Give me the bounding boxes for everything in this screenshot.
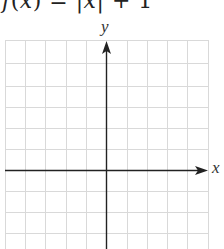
y-axis-label: y <box>101 17 109 37</box>
x-axis-label: x <box>212 158 220 178</box>
coordinate-grid <box>0 0 224 249</box>
y-axis <box>102 41 111 249</box>
